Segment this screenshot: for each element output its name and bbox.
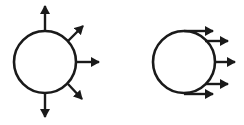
arrow-down-right-icon xyxy=(68,84,82,99)
directional-emission-figure xyxy=(153,31,235,94)
source-circle xyxy=(14,31,76,93)
diagram-canvas xyxy=(0,0,244,125)
arrow-up-right-icon xyxy=(68,26,83,41)
radial-emission-figure xyxy=(14,6,99,117)
